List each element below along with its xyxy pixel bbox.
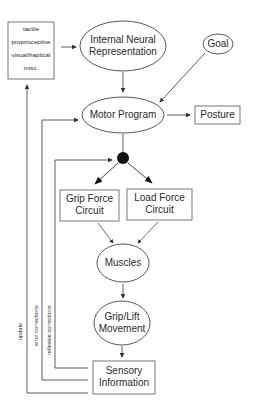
arrow-load-to-muscles xyxy=(138,222,158,243)
sensor-type-item: misc. xyxy=(8,64,54,71)
reflexive-corrections-label: reflexive corrections xyxy=(46,305,52,355)
arrow-goal-to-motor xyxy=(160,53,205,102)
arrow-grip-to-muscles xyxy=(98,223,113,243)
sensor-type-item: proprioceptive xyxy=(8,38,54,45)
grip-force-label: Grip Force Circuit xyxy=(60,193,119,216)
motor-program-label: Motor Program xyxy=(82,109,164,121)
error-corrections-label: error corrections xyxy=(33,305,39,346)
feedback-update-line xyxy=(27,85,88,393)
posture-label: Posture xyxy=(195,109,240,121)
muscles-label: Muscles xyxy=(97,257,149,269)
grip-lift-label: Grip/Lift Movement xyxy=(94,311,150,334)
load-force-label: Load Force Circuit xyxy=(127,192,192,215)
arrow-junction-to-grip xyxy=(95,163,118,184)
goal-label: Goal xyxy=(203,38,233,50)
arrow-junction-to-load xyxy=(128,163,152,183)
junction-node xyxy=(117,152,129,164)
sensor-type-item: visual/haptical xyxy=(8,51,54,58)
internal-neural-label: Internal Neural Representation xyxy=(80,34,166,57)
sensor-types-list: tactile proprioceptive visual/haptical m… xyxy=(8,25,54,72)
sensor-type-item: tactile xyxy=(8,25,54,32)
sensory-info-label: Sensory Information xyxy=(93,365,155,388)
update-label: update xyxy=(17,323,23,340)
